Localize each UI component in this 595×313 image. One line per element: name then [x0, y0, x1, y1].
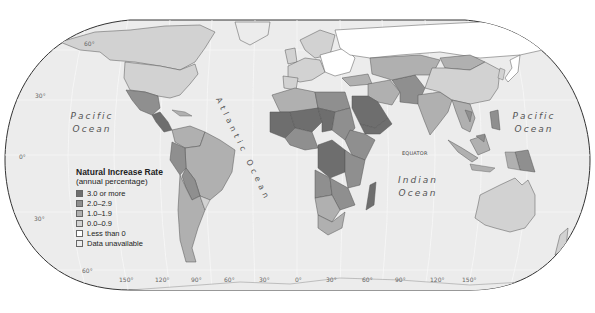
legend-title: Natural Increase Rate: [76, 168, 163, 177]
lon-label-120w: 120°: [155, 276, 169, 283]
lon-label-90w: 90°: [191, 276, 202, 283]
legend-item-2-2.9: 2.0–2.9: [76, 198, 163, 208]
indian-line2: Ocean: [388, 187, 448, 200]
lat-0-label: 0°: [19, 153, 26, 160]
legend-label: 1.0–1.9: [87, 209, 112, 218]
lon-label-30w: 30°: [259, 276, 270, 283]
legend-label: 2.0–2.9: [87, 199, 112, 208]
lat-30n-label: 30°: [35, 92, 46, 99]
legend-subtitle: (annual percentage): [76, 177, 163, 186]
lon-label-150e: 150°: [462, 276, 476, 283]
pacific-east-line2: Ocean: [504, 123, 564, 136]
lat-60s-label: 60°: [82, 267, 93, 274]
legend-item-less-than-0: Less than 0: [76, 228, 163, 238]
legend-label: 3.0 or more: [87, 189, 125, 198]
legend-item-data-unavailable: Data unavailable: [76, 238, 163, 248]
pacific-east-line1: Pacific: [504, 110, 564, 123]
legend-label: Data unavailable: [87, 239, 143, 248]
legend-item-0-0.9: 0.0–0.9: [76, 218, 163, 228]
swatch-icon: [76, 230, 83, 237]
pacific-west-line2: Ocean: [62, 123, 122, 136]
lon-label-60w: 60°: [224, 276, 235, 283]
map-legend: Natural Increase Rate (annual percentage…: [76, 168, 163, 248]
lon-label-150w: 150°: [119, 276, 133, 283]
lat-30s-label: 30°: [34, 215, 45, 222]
legend-label: 0.0–0.9: [87, 219, 112, 228]
pacific-west-line1: Pacific: [62, 110, 122, 123]
lon-label-90e: 90°: [395, 276, 406, 283]
lat-60n-label: 60°: [84, 40, 95, 47]
pacific-ocean-east-label: Pacific Ocean: [504, 110, 564, 136]
indian-line1: Indian: [388, 174, 448, 187]
legend-label: Less than 0: [87, 229, 126, 238]
swatch-icon: [76, 210, 83, 217]
swatch-icon: [76, 200, 83, 207]
swatch-icon: [76, 220, 83, 227]
equator-label: EQUATOR: [402, 150, 428, 156]
legend-item-1-1.9: 1.0–1.9: [76, 208, 163, 218]
lon-label-60e: 60°: [362, 276, 373, 283]
lon-label-0: 0°: [295, 276, 302, 283]
lon-label-30e: 30°: [326, 276, 337, 283]
pacific-ocean-west-label: Pacific Ocean: [62, 110, 122, 136]
swatch-icon: [76, 190, 83, 197]
swatch-icon: [76, 240, 83, 247]
lon-label-120e: 120°: [430, 276, 444, 283]
legend-item-3plus: 3.0 or more: [76, 188, 163, 198]
indian-ocean-label: Indian Ocean: [388, 174, 448, 200]
